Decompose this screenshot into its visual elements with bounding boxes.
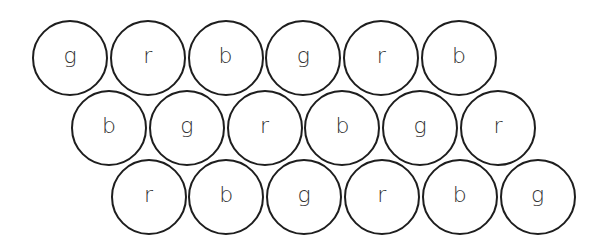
circle-label: b — [102, 115, 116, 137]
circle-label: b — [219, 184, 233, 206]
circle: r — [111, 159, 187, 235]
circle: b — [304, 90, 380, 166]
circle: g — [149, 90, 225, 166]
circle: g — [500, 159, 576, 235]
circle-label: r — [143, 45, 152, 67]
circle-label: r — [377, 184, 386, 206]
circle: b — [421, 20, 497, 96]
circle-label: g — [414, 115, 427, 137]
circle-label: b — [452, 45, 466, 67]
circle: g — [32, 20, 108, 96]
circle: r — [227, 90, 303, 166]
circle-label: r — [493, 115, 502, 137]
circle: b — [188, 20, 264, 96]
circle-label: g — [531, 184, 544, 206]
circle: b — [71, 90, 147, 166]
circle-label: r — [144, 184, 153, 206]
circle: r — [344, 159, 420, 235]
circle: b — [422, 159, 498, 235]
circle: g — [382, 90, 458, 166]
circle: g — [265, 20, 341, 96]
circle-label: r — [260, 115, 269, 137]
circle-label: b — [335, 115, 349, 137]
circle: b — [188, 159, 264, 235]
circle-label: b — [453, 184, 467, 206]
circle: g — [266, 159, 342, 235]
circle: r — [460, 90, 536, 166]
circle: r — [343, 20, 419, 96]
circle-label: g — [297, 184, 310, 206]
circle-label: g — [297, 45, 310, 67]
circle-grid-diagram: g r b g r b b g r b g r r b g r b g — [0, 0, 597, 245]
circle-label: b — [219, 45, 233, 67]
circle: r — [110, 20, 186, 96]
circle-label: g — [180, 115, 193, 137]
circle-label: r — [377, 45, 386, 67]
circle-label: g — [63, 45, 76, 67]
